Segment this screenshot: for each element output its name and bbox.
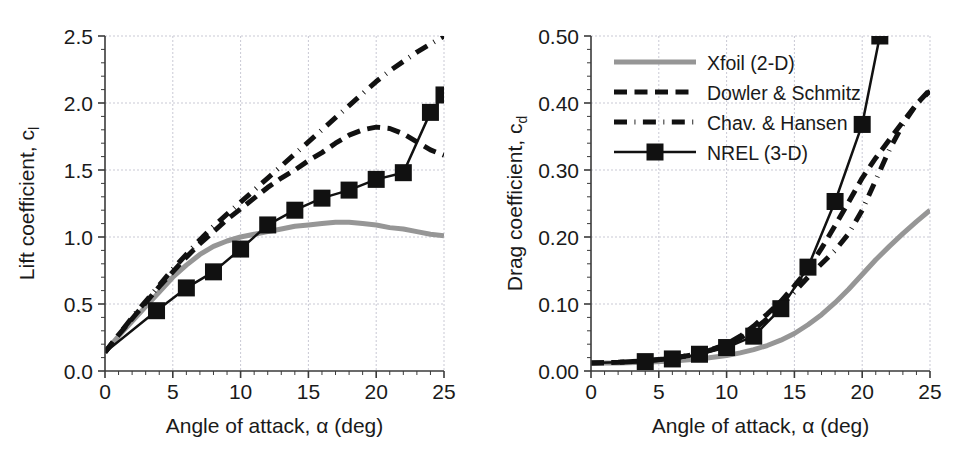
drag-coefficient-panel: 05101520250.000.100.200.300.400.50Angle … (486, 0, 971, 470)
y-tick-label: 0.50 (538, 25, 579, 48)
y-tick-label: 0.20 (538, 226, 579, 249)
data-point-marker (745, 328, 762, 345)
x-tick-label: 5 (167, 380, 179, 403)
axes (98, 36, 444, 378)
y-tick-label: 0.10 (538, 293, 579, 316)
data-point-marker (341, 182, 358, 199)
x-tick-label: 0 (585, 380, 597, 403)
data-point-marker (148, 302, 165, 319)
y-axis-label: Lift coefficient, cl (15, 127, 42, 280)
data-point-marker (422, 104, 439, 121)
x-tick-label: 20 (365, 380, 388, 403)
data-point-marker (259, 216, 276, 233)
data-point-marker (854, 116, 871, 133)
x-tick-label: 25 (918, 380, 941, 403)
lift-coefficient-panel: 05101520250.00.51.01.52.02.5Angle of att… (0, 0, 485, 470)
legend-label: Chav. & Hansen (707, 112, 848, 134)
data-point-marker (313, 190, 330, 207)
data-point-marker (772, 300, 789, 317)
y-tick-label: 0.00 (538, 360, 579, 383)
x-tick-label: 15 (297, 380, 320, 403)
y-tick-label: 1.0 (64, 226, 93, 249)
data-point-marker (718, 339, 735, 356)
legend-label: Xfoil (2-D) (707, 52, 795, 74)
data-point-marker (871, 28, 888, 45)
data-point-marker (178, 279, 195, 296)
tick-labels: 05101520250.00.51.01.52.02.5 (64, 25, 456, 404)
x-tick-label: 20 (851, 380, 874, 403)
grid (105, 36, 444, 371)
data-point-marker (395, 164, 412, 181)
x-tick-label: 0 (99, 380, 111, 403)
legend-marker (647, 144, 664, 161)
drag-chart: 05101520250.000.100.200.300.400.50Angle … (486, 0, 971, 470)
y-tick-label: 0.0 (64, 360, 93, 383)
legend: Xfoil (2-D)Dowler & SchmitzChav. & Hanse… (614, 52, 861, 164)
data-point-marker (205, 263, 222, 280)
data-point-marker (799, 259, 816, 276)
data-point-marker (691, 346, 708, 363)
x-axis-label: Angle of attack, α (deg) (652, 414, 870, 437)
y-tick-label: 2.0 (64, 92, 93, 115)
data-point-marker (827, 193, 844, 210)
y-tick-label: 0.5 (64, 293, 93, 316)
x-tick-label: 25 (432, 380, 455, 403)
y-tick-label: 2.5 (64, 25, 93, 48)
figure-root: 05101520250.00.51.01.52.02.5Angle of att… (0, 0, 971, 470)
y-tick-label: 0.40 (538, 92, 579, 115)
data-point-marker (637, 353, 654, 370)
data-point-marker (664, 350, 681, 367)
series-group (591, 28, 930, 371)
data-point-marker (232, 241, 249, 258)
x-tick-label: 10 (229, 380, 252, 403)
data-point-marker (436, 86, 453, 103)
legend-label: NREL (3-D) (707, 142, 808, 164)
y-tick-label: 0.30 (538, 159, 579, 182)
data-point-marker (286, 202, 303, 219)
x-tick-label: 10 (715, 380, 738, 403)
y-axis-label: Drag coefficient, cd (503, 116, 530, 292)
lift-chart: 05101520250.00.51.01.52.02.5Angle of att… (0, 0, 485, 470)
x-axis-label: Angle of attack, α (deg) (166, 414, 384, 437)
y-tick-label: 1.5 (64, 159, 93, 182)
x-tick-label: 15 (783, 380, 806, 403)
series-group (105, 36, 453, 352)
legend-label: Dowler & Schmitz (707, 82, 861, 104)
data-point-marker (368, 171, 385, 188)
x-tick-label: 5 (653, 380, 665, 403)
